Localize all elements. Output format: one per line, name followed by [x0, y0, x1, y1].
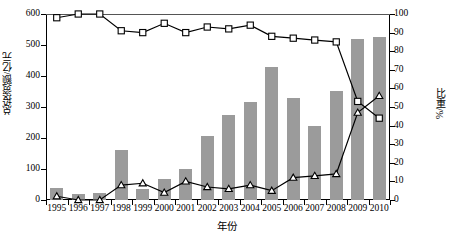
x-tick-label-2007: 2007	[304, 203, 326, 213]
x-tick-label-2003: 2003	[218, 203, 240, 213]
marker-square-2000	[161, 20, 167, 26]
y-tick-mark-right	[390, 163, 395, 164]
plot-area	[46, 14, 390, 200]
x-tick-label-2005: 2005	[261, 203, 283, 213]
x-tick-label-2006: 2006	[283, 203, 305, 213]
y-tick-mark-right	[390, 33, 395, 34]
marker-square-1998	[118, 28, 124, 34]
y-tick-mark-right	[390, 126, 395, 127]
marker-square-2007	[312, 37, 318, 43]
y-tick-mark-right	[390, 88, 395, 89]
y-tick-label-right: 20	[394, 158, 404, 168]
y-axis-title-right: 比重/%	[432, 88, 447, 119]
marker-square-1995	[54, 15, 60, 21]
y-tick-label-left: 100	[26, 164, 40, 174]
y-tick-label-left: 300	[26, 102, 40, 112]
y-tick-label-right: 60	[394, 84, 404, 94]
marker-square-2004	[247, 22, 253, 28]
marker-square-2005	[269, 33, 275, 39]
y-axis-tick-labels-left: 0100200300400500600	[8, 14, 40, 200]
y-tick-mark-right	[390, 181, 395, 182]
marker-square-1996	[75, 11, 81, 17]
x-tick-label-1996: 1996	[68, 203, 90, 213]
y-tick-label-right: 40	[394, 121, 404, 131]
y-tick-label-left: 0	[35, 195, 40, 205]
marker-square-2002	[204, 24, 210, 30]
x-tick-mark	[390, 200, 391, 205]
line-path-square	[57, 14, 380, 118]
line-path-triangle	[57, 96, 380, 200]
marker-square-2009	[355, 98, 361, 104]
y-tick-mark-right	[390, 14, 395, 15]
marker-triangle-2001	[182, 178, 189, 184]
marker-square-2010	[376, 115, 382, 121]
y-tick-label-left: 600	[26, 9, 40, 19]
marker-square-2008	[333, 39, 339, 45]
x-tick-label-2010: 2010	[369, 203, 391, 213]
x-tick-label-2002: 2002	[197, 203, 219, 213]
y-tick-label-left: 200	[26, 133, 40, 143]
y-tick-label-right: 100	[394, 9, 408, 19]
y-tick-mark-right	[390, 107, 395, 108]
x-axis-tick-labels: 1995199619971998199920002001200220032004…	[46, 203, 390, 213]
x-tick-label-2009: 2009	[347, 203, 369, 213]
line-series	[46, 14, 390, 200]
x-tick-label-1998: 1998	[111, 203, 133, 213]
x-tick-label-2008: 2008	[326, 203, 348, 213]
marker-triangle-1999	[139, 180, 146, 186]
x-tick-label-1999: 1999	[132, 203, 154, 213]
y-tick-label-right: 90	[394, 28, 404, 38]
y-tick-label-left: 500	[26, 40, 40, 50]
marker-triangle-2004	[247, 182, 254, 188]
x-tick-label-1995: 1995	[46, 203, 68, 213]
marker-square-1997	[97, 11, 103, 17]
x-tick-label-2000: 2000	[154, 203, 176, 213]
y-tick-mark-right	[390, 70, 395, 71]
y-tick-label-right: 70	[394, 65, 404, 75]
chart-figure: 总投资额/亿元 比重/% 0100200300400500600 0102030…	[0, 0, 454, 246]
y-tick-label-right: 30	[394, 139, 404, 149]
y-tick-label-right: 10	[394, 177, 404, 187]
marker-triangle-2008	[333, 170, 340, 176]
y-tick-label-right: 80	[394, 46, 404, 56]
marker-triangle-2010	[376, 92, 383, 98]
marker-square-1999	[140, 30, 146, 36]
x-axis-title: 年份	[0, 218, 454, 233]
marker-square-2001	[183, 30, 189, 36]
marker-triangle-1995	[53, 193, 60, 199]
y-tick-label-right: 50	[394, 102, 404, 112]
x-tick-label-1997: 1997	[89, 203, 111, 213]
y-axis-tick-labels-right: 0102030405060708090100	[394, 14, 426, 200]
x-tick-label-2001: 2001	[175, 203, 197, 213]
x-tick-label-2004: 2004	[240, 203, 262, 213]
y-tick-mark-right	[390, 144, 395, 145]
marker-square-2003	[226, 26, 232, 32]
marker-square-2006	[290, 35, 296, 41]
y-tick-label-left: 400	[26, 71, 40, 81]
y-tick-mark-right	[390, 51, 395, 52]
